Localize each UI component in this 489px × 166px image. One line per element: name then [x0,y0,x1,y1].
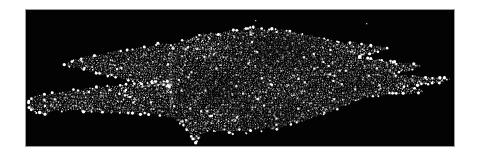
particle-aggregate-canvas [26,10,454,146]
micrograph-frame [25,9,455,147]
photo-background [0,0,489,166]
